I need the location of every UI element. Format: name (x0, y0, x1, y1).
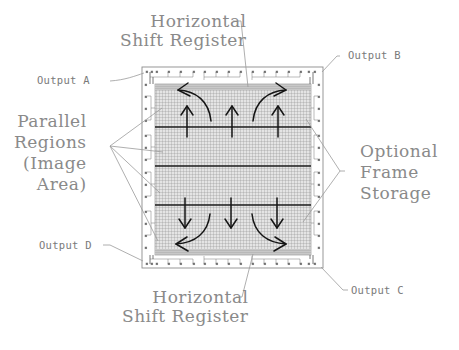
leader-output-a (110, 73, 144, 81)
parallel-regions-line4: Area) (14, 174, 87, 195)
frame-storage-line2: Frame (360, 162, 438, 183)
output-a-label: Output A (37, 75, 90, 86)
output-c-label: Output C (351, 285, 404, 296)
leader-output-b (322, 56, 340, 72)
bottom-register-label-line1: Horizontal (122, 289, 248, 306)
parallel-regions-line1: Parallel (14, 111, 87, 132)
parallel-regions-line3: (Image (14, 153, 87, 174)
bottom-register-label-line2: Shift Register (122, 308, 248, 325)
top-register-label-line2: Shift Register (120, 32, 246, 49)
parallel-regions-line2: Regions (14, 132, 87, 153)
output-b-label: Output B (348, 50, 401, 61)
frame-storage-line1: Optional (360, 141, 438, 162)
bottom-serial-register-strip (155, 249, 311, 255)
top-register-label-line1: Horizontal (120, 13, 246, 30)
parallel-regions-label: Parallel Regions (Image Area) (14, 111, 87, 195)
pixel-array (155, 84, 311, 255)
frame-storage-line3: Storage (360, 183, 438, 204)
frame-storage-label: Optional Frame Storage (360, 141, 438, 204)
leader-output-c (321, 267, 348, 290)
output-d-label: Output D (39, 240, 92, 251)
top-register-label: Horizontal Shift Register (120, 13, 246, 49)
bottom-register-label: Horizontal Shift Register (122, 289, 248, 325)
leader-output-d (103, 245, 143, 261)
